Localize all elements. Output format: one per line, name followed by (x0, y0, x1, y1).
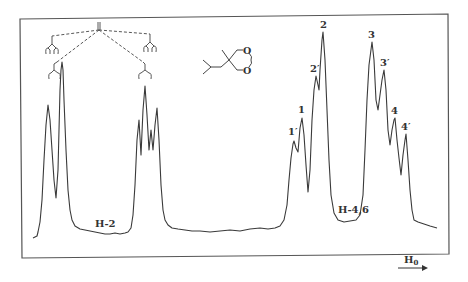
oxygen-top-label: O (243, 45, 251, 56)
nmr-spectrum-figure: O O 1′ 1 2′ 2 3 3′ 4 4′ H-2 H-4,6 H0 (0, 0, 468, 282)
spectrum-trace (33, 32, 437, 238)
peak-label-2: 2 (320, 19, 327, 30)
field-label-h0-sub: 0 (413, 258, 418, 267)
splitting-tree (46, 22, 157, 79)
multiplet-label-h46: H-4,6 (338, 204, 369, 216)
peak-label-1: 1 (298, 104, 305, 115)
peak-label-3: 3 (368, 29, 375, 40)
peak-label-1-prime: 1′ (288, 126, 298, 137)
peak-label-2-prime: 2′ (310, 63, 320, 74)
peak-label-4: 4 (391, 105, 398, 116)
peak-label-4-prime: 4′ (401, 121, 411, 132)
field-label-h0: H0 (404, 254, 418, 267)
peak-label-3-prime: 3′ (380, 57, 390, 68)
oxygen-bottom-label: O (243, 65, 251, 76)
plot-frame (20, 14, 449, 258)
field-label-h0-main: H (404, 254, 413, 265)
multiplet-label-h2: H-2 (95, 218, 116, 229)
